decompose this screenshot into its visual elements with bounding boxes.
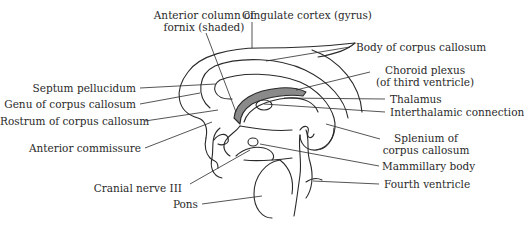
leader-anterior-commissure [145,122,212,148]
brainstem-back [306,130,312,198]
third-ventricle-wall [224,126,240,156]
label-body-corpus-callosum: Body of corpus callosum [356,41,486,53]
label-cranial-nerve-iii: Cranial nerve III [0,182,182,194]
hypothalamus [211,128,222,178]
label-choroid-plexus-line1: Choroid plexus [366,64,484,76]
label-choroid-plexus-line2: (of third ventricle) [366,76,484,88]
leader-interthalamic [264,104,385,112]
label-fourth-ventricle: Fourth ventricle [384,178,470,190]
leader-choroid [296,72,370,90]
label-pons: Pons [0,198,198,210]
cingulate-tail-2 [312,50,362,112]
label-interthalamic-connection: Interthalamic connection [390,106,524,118]
midbrain-top [236,147,274,160]
leader-mammillary [260,144,379,166]
mammillary-body [248,138,258,146]
label-rostrum-corpus-callosum: Rostrum of corpus callosum [0,115,141,127]
label-splenium: Splenium of corpus callosum [376,132,476,156]
label-anterior-commissure: Anterior commissure [0,142,141,154]
leader-anterior-column-fornix [206,33,236,112]
label-thalamus: Thalamus [390,93,442,105]
label-anterior-column-fornix-line2: fornix (shaded) [143,21,265,33]
label-septum-pellucidum: Septum pellucidum [0,82,136,94]
leader-cn3 [190,150,250,184]
splenium [316,128,334,150]
label-splenium-line1: Splenium of [376,132,476,144]
interthalamic-connection [256,100,272,110]
leader-rostrum [145,110,218,121]
leader-pons [202,196,262,204]
pons-front [280,160,293,194]
label-choroid-plexus: Choroid plexus (of third ventricle) [366,64,484,88]
brainstem-front [294,135,301,216]
pons-outline [254,160,280,218]
leader-fourth-ventricle [313,181,379,184]
label-splenium-line2: corpus callosum [376,144,476,156]
label-cingulate-cortex: Cingulate cortex (gyrus) [242,9,372,21]
label-mammillary-body: Mammillary body [382,160,475,172]
leader-genu [140,93,200,104]
label-genu-corpus-callosum: Genu of corpus callosum [0,98,136,110]
midbrain-line [244,158,292,161]
septum-loop [215,74,335,150]
leader-septum [140,84,216,88]
thalamus-inner [240,126,292,131]
leader-body-cc [266,47,350,61]
